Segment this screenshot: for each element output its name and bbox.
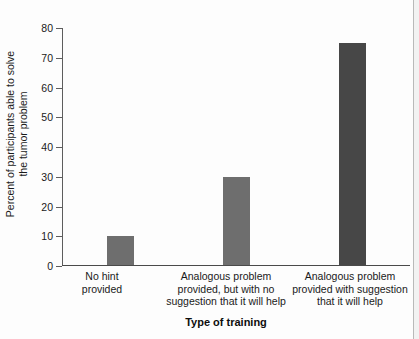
y-axis-tick-label: 40 — [41, 141, 53, 153]
y-axis-tick-label: 70 — [41, 52, 53, 64]
x-axis-tick-label-line: provided — [42, 283, 162, 296]
y-axis-tick — [56, 58, 62, 59]
y-axis-tick — [56, 88, 62, 89]
y-axis-label: Percent of participants able to solve th… — [0, 0, 34, 268]
y-axis-tick — [56, 266, 62, 267]
bar — [339, 43, 366, 265]
y-axis-tick-label: 20 — [41, 201, 53, 213]
y-axis-tick — [56, 147, 62, 148]
x-axis-spine — [62, 265, 410, 266]
y-axis-tick-label: 50 — [41, 111, 53, 123]
y-axis-tick-label: 30 — [41, 171, 53, 183]
y-axis-label-line-2: the tumor problem — [17, 51, 30, 217]
y-axis-tick-label: 80 — [41, 22, 53, 34]
x-axis-label: Type of training — [40, 316, 412, 328]
page-edge-line — [413, 0, 414, 339]
page-edge-shade — [414, 0, 419, 339]
y-axis-label-line-1: Percent of participants able to solve — [4, 51, 17, 217]
y-axis-tick — [56, 236, 62, 237]
y-axis-tick — [56, 28, 62, 29]
x-axis-tick-label-line: suggestion that it will help — [166, 295, 286, 308]
x-axis-tick-label-line: that it will help — [290, 295, 410, 308]
x-axis-tick-label: Analogous problemprovided, but with nosu… — [164, 270, 288, 312]
x-axis-tick-label: Analogous problemprovided with suggestio… — [288, 270, 412, 312]
x-axis-tick-label-line: No hint — [42, 270, 162, 283]
y-axis-tick — [56, 207, 62, 208]
bar — [223, 177, 250, 265]
x-axis-tick-label-line: Analogous problem — [290, 270, 410, 283]
x-axis-tick-label-line: provided with suggestion — [290, 283, 410, 296]
x-axis-tick-label-line: Analogous problem — [166, 270, 286, 283]
x-axis-tick-label: No hintprovided — [40, 270, 164, 312]
bar-chart-figure: Percent of participants able to solve th… — [0, 0, 419, 339]
y-axis-tick — [56, 177, 62, 178]
y-axis-tick-label: 60 — [41, 82, 53, 94]
x-axis-tick-labels: No hintprovidedAnalogous problemprovided… — [40, 270, 412, 312]
y-axis-spine — [62, 28, 63, 266]
y-axis-tick — [56, 117, 62, 118]
y-axis-tick-label: 10 — [41, 230, 53, 242]
bar — [107, 236, 134, 264]
x-axis-tick-label-line: provided, but with no — [166, 283, 286, 296]
plot-area: 01020304050607080 — [62, 28, 410, 266]
